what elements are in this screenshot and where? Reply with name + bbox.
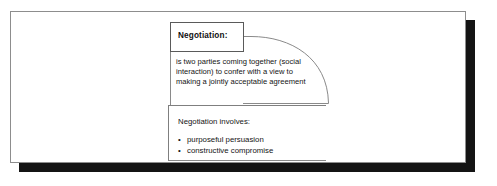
negotiation-title-label: Negotiation: xyxy=(178,31,228,40)
bullet-icon: • xyxy=(178,145,181,156)
negotiation-title-box: Negotiation: xyxy=(170,22,244,52)
negotiation-involves-box: Negotiation involves: • purposeful persu… xyxy=(168,105,326,161)
bullet-icon: • xyxy=(178,134,181,145)
scanned-page: Negotiation: is two parties coming toget… xyxy=(0,0,497,186)
negotiation-definition-text: is two parties coming together (social i… xyxy=(176,57,326,88)
connector-vertical-stem xyxy=(170,52,171,105)
involves-item-label: purposeful persuasion xyxy=(187,135,264,144)
definition-line-2: interaction) to confer with a view to xyxy=(176,67,326,77)
negotiation-diagram: Negotiation: is two parties coming toget… xyxy=(0,0,497,186)
list-item: • constructive compromise xyxy=(178,145,273,156)
involves-heading: Negotiation involves: xyxy=(178,117,250,126)
involves-item-label: constructive compromise xyxy=(187,146,273,155)
involves-bullet-list: • purposeful persuasion • constructive c… xyxy=(178,134,273,156)
definition-line-3: making a jointly acceptable agreement xyxy=(176,77,326,87)
definition-line-1: is two parties coming together (social xyxy=(176,57,326,67)
list-item: • purposeful persuasion xyxy=(178,134,273,145)
